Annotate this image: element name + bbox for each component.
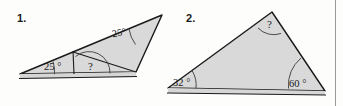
geometry-diagram-canvas [0, 0, 343, 106]
figure-1-number-label: 1. [17, 12, 27, 24]
figure-1-angle-bottom-left: 25 ° [44, 61, 61, 72]
figure-1-angle-unknown: ? [88, 60, 93, 72]
figure-2-angle-left: 32 ° [173, 77, 190, 88]
worksheet-page: 1. 2. 25 ° 25° ? 32 ° ? 60 ° [0, 0, 343, 106]
figure-2-number-label: 2. [186, 12, 196, 24]
figure-2-angle-top: ? [267, 18, 272, 30]
figure-2-angle-bottom-right: 60 ° [289, 78, 306, 89]
